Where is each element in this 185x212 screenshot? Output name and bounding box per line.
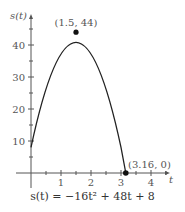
x-tick-label: 3 — [118, 177, 124, 188]
y-tick-label: 10 — [12, 136, 25, 147]
root-label: (3.16, 0) — [128, 159, 171, 170]
root-point — [123, 170, 129, 176]
x-tick-label: 4 — [148, 177, 154, 188]
y-axis-label: s(t) — [10, 10, 27, 21]
vertex-point — [73, 30, 78, 35]
x-tick-label: 1 — [58, 177, 64, 188]
chart-canvas: 1 2 3 4 10 20 30 40 s(t) t (1.5, 44) (3.… — [0, 0, 185, 212]
y-tick-label: 40 — [12, 40, 25, 51]
x-axis-label: t — [169, 174, 174, 185]
vertex-label: (1.5, 44) — [55, 17, 98, 28]
y-tick-label: 30 — [12, 72, 25, 83]
y-tick-label: 20 — [12, 104, 25, 115]
equation-caption: s(t) = −16t² + 48t + 8 — [0, 190, 185, 203]
x-tick-label: 2 — [88, 177, 94, 188]
parabola-curve-main — [31, 42, 126, 173]
y-axis-arrow-icon — [29, 14, 33, 19]
